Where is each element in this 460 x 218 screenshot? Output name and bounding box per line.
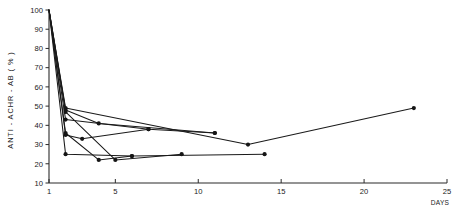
series-patient-3 <box>49 10 217 135</box>
chart-figure: 102030405060708090100 1510152025 DAYS AN… <box>0 0 460 218</box>
data-point <box>262 152 266 156</box>
line-chart: 102030405060708090100 1510152025 DAYS AN… <box>0 0 460 218</box>
x-tick-label: 1 <box>47 187 51 196</box>
data-point <box>97 158 101 162</box>
x-tick-label: 25 <box>443 187 451 196</box>
x-tick-label: 15 <box>277 187 285 196</box>
data-point <box>412 106 416 110</box>
x-tick-label: 20 <box>360 187 368 196</box>
data-point <box>63 152 67 156</box>
series-line <box>49 10 215 133</box>
data-point <box>246 142 250 146</box>
y-tick-group: 102030405060708090100 <box>30 6 49 188</box>
y-tick-label: 100 <box>30 6 43 15</box>
data-point <box>63 131 67 135</box>
data-point <box>213 131 217 135</box>
y-tick-label: 50 <box>35 102 43 111</box>
x-axis-title: DAYS <box>431 199 450 206</box>
y-tick-label: 90 <box>35 25 43 34</box>
y-tick-label: 40 <box>35 121 43 130</box>
x-tick-label: 10 <box>194 187 202 196</box>
series-patient-2 <box>49 10 217 135</box>
series-layer <box>49 10 416 162</box>
series-patient-1 <box>49 10 416 147</box>
data-point <box>146 127 150 131</box>
y-tick-label: 10 <box>35 179 43 188</box>
y-axis-title: ANTI - ACHR - AB ( % ) <box>6 51 15 148</box>
data-point <box>63 110 67 114</box>
x-tick-label: 5 <box>113 187 117 196</box>
series-line <box>49 10 265 156</box>
y-tick-label: 30 <box>35 140 43 149</box>
series-line <box>49 10 215 133</box>
data-point <box>130 154 134 158</box>
data-point <box>113 158 117 162</box>
y-tick-label: 20 <box>35 160 43 169</box>
series-patient-6 <box>49 10 267 158</box>
series-line <box>49 10 182 160</box>
data-point <box>180 152 184 156</box>
y-tick-label: 70 <box>35 63 43 72</box>
series-patient-7 <box>49 10 184 162</box>
y-tick-label: 60 <box>35 83 43 92</box>
data-point <box>80 137 84 141</box>
y-tick-label: 80 <box>35 44 43 53</box>
x-tick-group: 1510152025 <box>47 179 451 196</box>
